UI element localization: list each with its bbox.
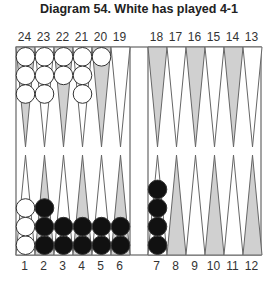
white-checker[interactable] <box>73 66 92 85</box>
white-checker[interactable] <box>16 85 35 104</box>
black-checker[interactable] <box>73 236 92 255</box>
backgammon-board <box>0 0 278 282</box>
white-checker[interactable] <box>92 48 111 67</box>
black-checker[interactable] <box>111 217 130 236</box>
white-checker[interactable] <box>73 48 92 67</box>
black-checker[interactable] <box>92 217 111 236</box>
black-checker[interactable] <box>35 199 54 218</box>
white-checker[interactable] <box>35 48 54 67</box>
white-checker[interactable] <box>54 48 73 67</box>
black-checker[interactable] <box>148 236 167 255</box>
white-checker[interactable] <box>73 85 92 104</box>
black-checker[interactable] <box>148 199 167 218</box>
black-checker[interactable] <box>92 236 111 255</box>
white-checker[interactable] <box>16 66 35 85</box>
black-checker[interactable] <box>54 217 73 236</box>
black-checker[interactable] <box>35 236 54 255</box>
white-checker[interactable] <box>54 66 73 85</box>
black-checker[interactable] <box>111 236 130 255</box>
white-checker[interactable] <box>35 66 54 85</box>
black-checker[interactable] <box>148 180 167 199</box>
white-checker[interactable] <box>35 85 54 104</box>
white-checker[interactable] <box>16 199 35 218</box>
black-checker[interactable] <box>35 217 54 236</box>
black-checker[interactable] <box>148 217 167 236</box>
white-checker[interactable] <box>16 236 35 255</box>
black-checker[interactable] <box>73 217 92 236</box>
black-checker[interactable] <box>54 236 73 255</box>
white-checker[interactable] <box>16 217 35 236</box>
white-checker[interactable] <box>16 48 35 67</box>
